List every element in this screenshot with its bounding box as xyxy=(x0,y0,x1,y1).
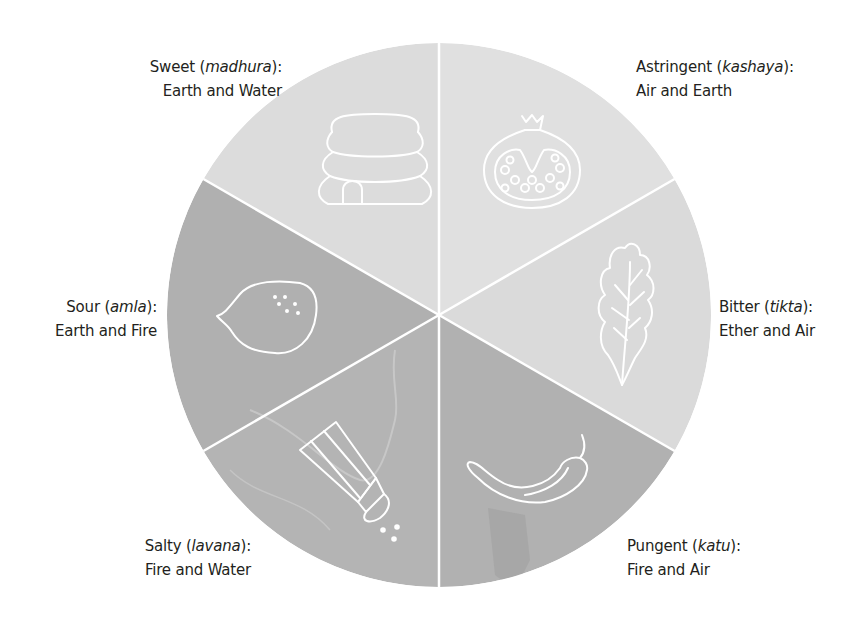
paren: ( xyxy=(712,58,722,76)
elements-text: Earth and Water xyxy=(150,79,282,103)
sanskrit-name: amla xyxy=(110,298,146,316)
paren: ): xyxy=(783,58,794,76)
paren: ): xyxy=(802,298,813,316)
taste-name: Pungent xyxy=(627,537,688,555)
paren: ( xyxy=(759,298,769,316)
sanskrit-name: lavana xyxy=(192,537,241,555)
paren: ): xyxy=(271,58,282,76)
elements-text: Ether and Air xyxy=(719,319,815,343)
elements-text: Earth and Fire xyxy=(55,319,157,343)
label-astringent: Astringent (kashaya): Air and Earth xyxy=(636,55,794,103)
sanskrit-name: tikta xyxy=(770,298,803,316)
sanskrit-name: kashaya xyxy=(722,58,783,76)
taste-name: Sour xyxy=(66,298,100,316)
elements-text: Fire and Air xyxy=(627,558,741,582)
label-bitter: Bitter (tikta): Ether and Air xyxy=(719,295,815,343)
paren: ( xyxy=(181,537,191,555)
taste-name: Bitter xyxy=(719,298,759,316)
elements-text: Air and Earth xyxy=(636,79,794,103)
label-pungent: Pungent (katu): Fire and Air xyxy=(627,534,741,582)
label-sweet: Sweet (madhura): Earth and Water xyxy=(150,55,282,103)
elements-text: Fire and Water xyxy=(145,558,251,582)
paren: ): xyxy=(240,537,251,555)
sanskrit-name: madhura xyxy=(205,58,271,76)
paren: ( xyxy=(688,537,698,555)
paren: ): xyxy=(730,537,741,555)
paren: ( xyxy=(100,298,110,316)
taste-name: Astringent xyxy=(636,58,712,76)
label-salty: Salty (lavana): Fire and Water xyxy=(145,534,251,582)
paren: ( xyxy=(195,58,205,76)
label-sour: Sour (amla): Earth and Fire xyxy=(55,295,157,343)
taste-name: Sweet xyxy=(150,58,195,76)
paren: ): xyxy=(146,298,157,316)
taste-name: Salty xyxy=(145,537,182,555)
sanskrit-name: katu xyxy=(698,537,730,555)
